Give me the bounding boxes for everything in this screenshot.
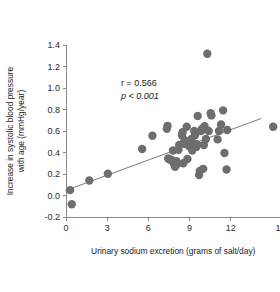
chart-canvas: -0.20.00.20.40.60.81.01.21.403691216r = … — [0, 0, 280, 292]
y-tick-label: 1.2 — [47, 62, 60, 72]
data-point — [213, 135, 221, 143]
data-point — [199, 165, 207, 173]
data-point — [269, 123, 277, 131]
x-tick-label: 16 — [276, 223, 280, 233]
data-point — [183, 123, 191, 131]
data-point — [138, 145, 146, 153]
data-point — [222, 165, 230, 173]
x-tick-label: 0 — [63, 223, 68, 233]
y-tick-label: 1.4 — [47, 40, 60, 50]
x-tick-label: 12 — [226, 223, 236, 233]
y-tick-label: 0.8 — [47, 105, 60, 115]
y-tick-label: 0.6 — [47, 126, 60, 136]
data-point — [207, 111, 215, 119]
x-tick-label: 9 — [187, 223, 192, 233]
data-point — [66, 186, 74, 194]
data-point — [220, 149, 228, 157]
data-point — [223, 126, 231, 134]
data-point — [104, 170, 112, 178]
y-tick-label: 1.0 — [47, 83, 60, 93]
x-tick-label: 6 — [146, 223, 151, 233]
data-point — [194, 112, 202, 120]
y-tick-label: 0.4 — [47, 148, 60, 158]
stat-annotation: r = 0.566 — [121, 78, 157, 88]
y-tick-label: 0.2 — [47, 169, 60, 179]
y-axis-title-line2: with age (mmHg/year) — [16, 90, 26, 174]
data-point — [202, 135, 210, 143]
data-point — [219, 106, 227, 114]
x-axis-title: Urinary sodium excretion (grams of salt/… — [91, 246, 256, 256]
data-point — [183, 155, 191, 163]
data-point — [85, 176, 93, 184]
data-point — [68, 200, 76, 208]
y-axis-title-line1: Increase in systolic blood pressure — [5, 66, 15, 195]
data-point — [204, 127, 212, 135]
stat-annotation: p < 0.001 — [120, 91, 159, 101]
scatter-plot-figure: -0.20.00.20.40.60.81.01.21.403691216r = … — [0, 0, 280, 292]
data-point — [203, 50, 211, 58]
data-point — [148, 132, 156, 140]
data-point — [163, 122, 171, 130]
x-tick-label: 3 — [105, 223, 110, 233]
y-tick-label: 0.0 — [47, 191, 60, 201]
y-tick-label: -0.2 — [44, 212, 60, 222]
